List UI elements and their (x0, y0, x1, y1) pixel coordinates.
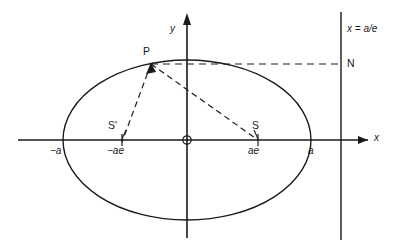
x-axis-label: x (374, 133, 379, 143)
focus-right-coord-label: ae (248, 146, 259, 156)
y-axis-arrowhead (183, 13, 191, 25)
y-axis (183, 13, 191, 238)
vertex-right-label: a (308, 146, 314, 156)
vertex-left-label: −a (50, 146, 61, 156)
x-axis-arrowhead (358, 136, 368, 144)
x-axis (18, 136, 368, 144)
ellipse-diagram: y x P N S' S −a a −ae ae x = a/e (0, 0, 398, 252)
diagram-canvas (0, 0, 398, 252)
directrix-label: x = a/e (347, 24, 377, 34)
focus-left-label: S' (108, 120, 117, 131)
focus-left-coord-label: −ae (107, 146, 124, 156)
focus-right-label: S (252, 120, 259, 131)
ps-dashed-segment (151, 64, 258, 140)
point-n-label: N (347, 58, 355, 69)
y-axis-label: y (170, 24, 175, 34)
point-p-label: P (143, 46, 150, 57)
